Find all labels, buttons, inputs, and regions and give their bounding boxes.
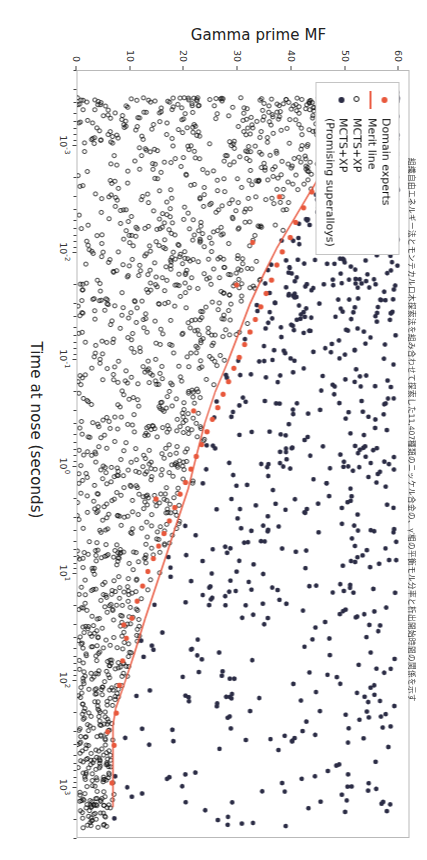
y-tick-label: 0 <box>71 40 82 62</box>
x-minor-tick <box>74 449 77 450</box>
x-tick-label: 103 <box>58 779 70 796</box>
x-minor-tick <box>74 335 77 336</box>
x-tick-label: 10-2 <box>58 242 70 261</box>
x-minor-tick <box>74 434 77 435</box>
x-minor-tick <box>74 556 77 557</box>
x-minor-tick <box>74 354 77 355</box>
x-minor-tick <box>74 121 77 122</box>
legend-item-mcts-xp-promising: MCTS+XP (Promising superalloys) <box>322 89 348 247</box>
x-tick-label: 10-3 <box>58 135 70 154</box>
mcts-xp-marker-icon <box>350 89 363 111</box>
x-minor-tick <box>74 541 77 542</box>
x-minor-tick <box>74 209 77 210</box>
x-tick-mark <box>72 466 76 467</box>
legend-item-mcts-xp: MCTS+XP <box>350 89 363 247</box>
x-minor-tick <box>74 241 77 242</box>
x-minor-tick <box>74 228 77 229</box>
legend-label: Domain experts <box>379 118 392 206</box>
x-minor-tick <box>74 134 77 135</box>
x-minor-tick <box>74 220 77 221</box>
y-tick-mark <box>129 66 130 70</box>
x-minor-tick <box>74 648 77 649</box>
x-tick-label: 102 <box>58 672 70 689</box>
x-minor-tick <box>74 102 77 103</box>
x-tick-mark <box>72 680 76 681</box>
x-minor-tick <box>74 455 77 456</box>
x-minor-tick <box>74 763 77 764</box>
x-minor-tick <box>74 89 77 90</box>
x-minor-tick <box>74 235 77 236</box>
x-minor-tick <box>74 423 77 424</box>
legend-label: MCTS+XP (Promising superalloys) <box>322 118 348 247</box>
x-tick-mark <box>72 145 76 146</box>
y-tick-mark <box>344 66 345 70</box>
y-tick-mark <box>182 66 183 70</box>
x-minor-tick <box>74 637 77 638</box>
x-minor-tick <box>74 670 77 671</box>
x-minor-tick <box>74 530 77 531</box>
x-tick-label: 10-1 <box>58 349 70 368</box>
x-minor-tick <box>74 712 77 713</box>
x-minor-tick <box>74 196 77 197</box>
x-minor-tick <box>74 128 77 129</box>
x-minor-tick <box>74 782 77 783</box>
legend: Domain experts Merit line MCTS+XP <box>315 82 399 255</box>
x-minor-tick <box>74 605 77 606</box>
x-minor-tick <box>74 755 77 756</box>
x-minor-tick <box>74 342 77 343</box>
x-minor-tick <box>74 563 77 564</box>
merit-line-marker-icon <box>364 89 377 111</box>
x-tick-label: 100 <box>58 458 70 475</box>
x-tick-mark <box>72 787 76 788</box>
legend-item-domain-experts: Domain experts <box>379 89 392 247</box>
x-minor-tick <box>74 663 77 664</box>
y-axis-label: Gamma prime MF <box>133 26 383 44</box>
x-minor-tick <box>74 442 77 443</box>
x-tick-mark <box>72 359 76 360</box>
mcts-xp-promising-marker-icon <box>335 89 348 111</box>
x-minor-tick <box>74 498 77 499</box>
x-minor-tick <box>74 624 77 625</box>
x-minor-tick <box>74 327 77 328</box>
x-minor-tick <box>74 391 77 392</box>
x-minor-tick <box>74 675 77 676</box>
x-minor-tick <box>74 731 77 732</box>
y-tick-mark <box>290 66 291 70</box>
x-minor-tick <box>74 303 77 304</box>
x-minor-tick <box>74 348 77 349</box>
x-minor-tick <box>74 316 77 317</box>
x-minor-tick <box>74 247 77 248</box>
figure-caption: 組織自由エネルギー法とモンテカルロ木探索法を組み合わせて探索した11,407種類… <box>406 158 415 703</box>
x-minor-tick <box>74 568 77 569</box>
x-minor-tick <box>74 70 77 71</box>
x-minor-tick <box>74 517 77 518</box>
y-tick-mark <box>75 66 76 70</box>
domain-experts-marker-icon <box>379 89 392 111</box>
x-minor-tick <box>74 777 77 778</box>
x-minor-tick <box>74 770 77 771</box>
x-minor-tick <box>74 284 77 285</box>
x-minor-tick <box>74 838 77 839</box>
x-minor-tick <box>74 177 77 178</box>
x-minor-tick <box>74 461 77 462</box>
x-minor-tick <box>74 410 77 411</box>
legend-item-merit-line: Merit line <box>364 89 377 247</box>
x-tick-mark <box>72 573 76 574</box>
x-minor-tick <box>74 113 77 114</box>
x-minor-tick <box>74 819 77 820</box>
x-tick-mark <box>72 252 76 253</box>
legend-label: MCTS+XP <box>350 118 363 172</box>
x-minor-tick <box>74 549 77 550</box>
figure-page: 10-310-210-1100101102103 0102030405060 T… <box>0 0 427 860</box>
x-axis-label: Time at nose (seconds) <box>26 0 44 860</box>
x-tick-label: 101 <box>58 565 70 582</box>
x-minor-tick <box>74 744 77 745</box>
x-minor-tick <box>74 656 77 657</box>
figure: 10-310-210-1100101102103 0102030405060 T… <box>0 0 427 860</box>
y-tick-mark <box>236 66 237 70</box>
caption-container: 組織自由エネルギー法とモンテカルロ木探索法を組み合わせて探索した11,407種類… <box>397 0 425 860</box>
rotated-figure-container: 10-310-210-1100101102103 0102030405060 T… <box>0 0 427 860</box>
x-minor-tick <box>74 140 77 141</box>
legend-label: Merit line <box>364 118 377 170</box>
